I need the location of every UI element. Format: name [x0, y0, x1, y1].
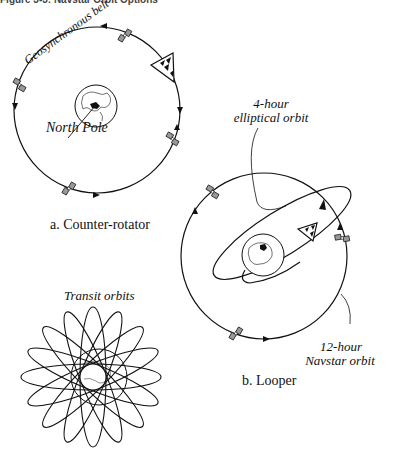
- launcher-triangle-icon: [298, 223, 317, 241]
- earth-globe-icon: [242, 234, 284, 276]
- satellite-icon: [11, 78, 27, 92]
- launcher-triangle-icon: [151, 53, 174, 82]
- caption-counter-rotator: a. Counter-rotator: [50, 217, 150, 232]
- satellite-icon: [229, 325, 243, 341]
- navstar-orbit-label-line2: Navstar orbit: [300, 353, 380, 368]
- elliptical-4-hour-orbit: [202, 172, 361, 294]
- navstar-orbit-label-line1: 12-hour: [306, 339, 376, 354]
- navstar-orbit-leader-line: [341, 294, 350, 324]
- elliptical-orbit-label-line1: 4-hour: [226, 96, 316, 111]
- north-pole-label: North Pole: [46, 120, 108, 135]
- arrow-icon: [263, 336, 270, 342]
- arrow-icon: [319, 199, 326, 210]
- satellite-icon: [335, 233, 350, 243]
- arrow-icon: [12, 103, 18, 110]
- diagram-canvas: [0, 0, 395, 471]
- caption-looper: b. Looper: [242, 373, 296, 388]
- elliptical-orbit-leader-line: [251, 128, 286, 210]
- elliptical-orbit-label-line2: elliptical orbit: [226, 110, 316, 125]
- looper-diagram: [181, 128, 362, 342]
- arrow-icon: [192, 207, 198, 214]
- satellite-icon: [62, 180, 76, 196]
- transit-orbits-label: Transit orbits: [64, 288, 134, 303]
- arrow-icon: [177, 107, 183, 114]
- satellite-icon: [164, 132, 180, 146]
- arrow-icon: [100, 23, 107, 29]
- transit-orbits-diagram: [21, 307, 163, 447]
